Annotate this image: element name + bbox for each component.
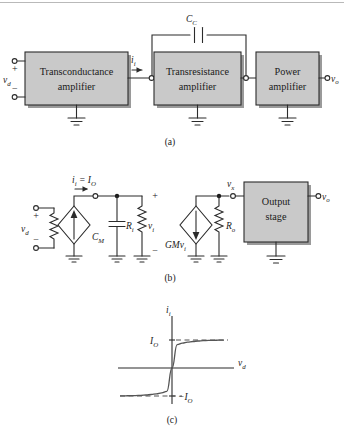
ii-equation-label: ii = IO xyxy=(72,175,96,187)
caption-a: (a) xyxy=(165,136,176,148)
gmvi-label: GMvi xyxy=(165,240,186,252)
y-axis-label: ii xyxy=(166,305,171,317)
transresistance-label-line1: Transresistance xyxy=(166,66,229,77)
ii-arrow-head xyxy=(137,67,143,73)
vd-minus-sign: − xyxy=(12,83,18,94)
vd-minus-terminal-b[interactable] xyxy=(34,246,39,251)
vd-label-a: vd xyxy=(3,75,11,87)
caption-c: (c) xyxy=(167,414,178,426)
ri-resistor xyxy=(138,196,146,256)
vd-plus-sign: + xyxy=(12,63,18,74)
x-axis-label: vd xyxy=(238,358,246,370)
positive-saturation-label: IO xyxy=(149,336,158,348)
figure-root: CC Transconductance amplifier + − vd xyxy=(0,0,344,431)
ii-terminal-b[interactable] xyxy=(93,194,98,199)
cm-label: CM xyxy=(92,232,105,244)
gm-source-arrow-head xyxy=(71,210,78,218)
ii-label-a: ii xyxy=(131,55,136,67)
vx-label: vx xyxy=(227,179,235,191)
transconductance-label-line2: amplifier xyxy=(58,81,96,92)
vo-label-a: vo xyxy=(331,74,339,86)
cc-label: CC xyxy=(186,14,197,26)
circuit-figure: CC Transconductance amplifier + − vd xyxy=(0,0,344,431)
power-label-line1: Power xyxy=(274,66,301,77)
gmvi-arrow-head xyxy=(193,232,200,240)
transresistance-amplifier-block[interactable] xyxy=(154,52,241,105)
vo-label-b: vo xyxy=(322,192,330,204)
negative-saturation-label: −IO xyxy=(178,392,193,404)
power-amplifier-block[interactable] xyxy=(256,52,319,105)
gm-source-top-wire xyxy=(74,196,93,206)
ii-node-terminal[interactable] xyxy=(149,76,154,81)
vd-minus-terminal[interactable] xyxy=(12,95,17,100)
transconductance-amplifier-block[interactable] xyxy=(25,52,128,105)
gmvi-top-wire xyxy=(196,196,229,206)
ii-arrow-head-b xyxy=(83,186,89,191)
power-label-line2: amplifier xyxy=(269,81,307,92)
vo-terminal-b[interactable] xyxy=(316,194,321,199)
part-a-group: CC Transconductance amplifier + − vd xyxy=(3,14,339,148)
transconductance-label-line1: Transconductance xyxy=(40,66,114,77)
vi-minus-sign: − xyxy=(152,245,158,256)
part-b-group: + − vd ii = IO xyxy=(21,175,330,284)
caption-b: (b) xyxy=(164,272,175,284)
vd-label-b: vd xyxy=(21,224,29,236)
vd-plus-sign-b: + xyxy=(33,210,39,221)
ro-resistor xyxy=(215,196,223,256)
output-stage-line2: stage xyxy=(266,211,287,222)
vd-minus-sign-b: − xyxy=(33,234,39,245)
vi-label: vi xyxy=(148,221,154,233)
ro-label: Ro xyxy=(225,221,236,233)
vi-plus-sign: + xyxy=(152,190,158,201)
ri-label: Ri xyxy=(125,221,134,233)
output-stage-line1: Output xyxy=(262,196,290,207)
part-c-group: ii vd IO −IO (c) xyxy=(118,305,246,426)
vx-terminal[interactable] xyxy=(231,194,236,199)
stage2-output-terminal[interactable] xyxy=(244,76,249,81)
transresistance-label-line2: amplifier xyxy=(179,81,217,92)
vo-terminal-a[interactable] xyxy=(325,76,330,81)
input-resistor-b xyxy=(50,208,58,248)
